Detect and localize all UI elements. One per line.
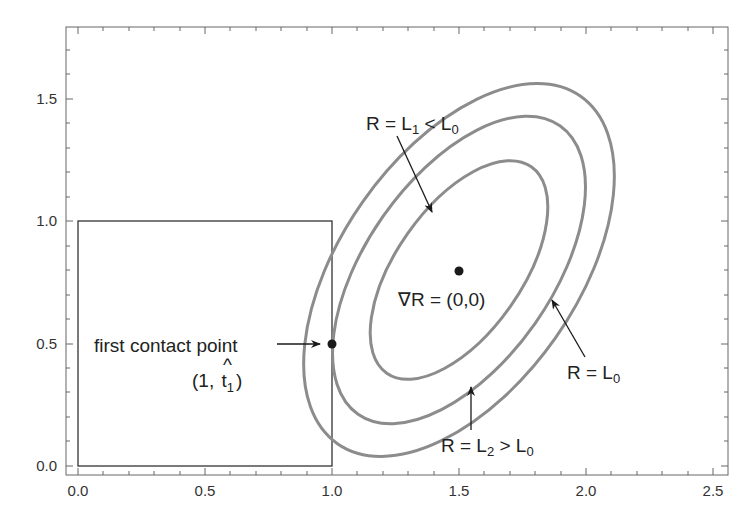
contour-diagram: 0.0 0.5 1.0 1.5 2.0 2.5 0.0 0.5 1.0 1.5 … [0,0,754,523]
l1-sub0: 0 [451,122,458,137]
x-tick-0: 0.0 [68,482,89,499]
l1-sub: 1 [412,122,419,137]
l2-mid: > L [494,435,526,456]
arrow-l1 [397,136,432,212]
x-tick-3: 1.5 [449,482,470,499]
contour-l0-label: R = L0 [567,362,620,386]
l2-sub0: 0 [526,444,533,459]
contact-point-label: first contact point [94,335,238,356]
contact-coord-hat: ^ [223,354,232,375]
y-tick-0: 0.0 [36,457,57,474]
x-tick-5: 2.5 [703,482,724,499]
y-tick-labels: 0.0 0.5 1.0 1.5 [36,90,57,474]
y-tick-2: 1.0 [36,212,57,229]
contact-coord-label: (1, t1) [192,370,242,395]
x-tick-labels: 0.0 0.5 1.0 1.5 2.0 2.5 [68,482,724,499]
contour-l2-label: R = L2 > L0 [441,435,534,459]
arrow-l0 [552,300,585,357]
l1-mid: < L [419,113,451,134]
x-tick-1: 0.5 [195,482,216,499]
l0-sub: 0 [613,371,620,386]
y-tick-1: 0.5 [36,335,57,352]
contact-coord-open: (1, [192,370,214,391]
contact-coord-close: ) [236,370,242,391]
contact-point [328,340,337,349]
optimum-point [455,267,464,276]
l1-r: R = L [366,113,412,134]
l2-r: R = L [441,435,487,456]
contour-l1-label: R = L1 < L0 [366,113,459,137]
contact-coord-sub: 1 [227,380,234,395]
x-tick-2: 1.0 [322,482,343,499]
gradient-label: ∇R = (0,0) [397,289,485,310]
annotation-arrows [277,136,585,430]
l0-r: R = L [567,362,613,383]
x-tick-4: 2.0 [576,482,597,499]
l2-sub: 2 [487,444,494,459]
y-tick-3: 1.5 [36,90,57,107]
